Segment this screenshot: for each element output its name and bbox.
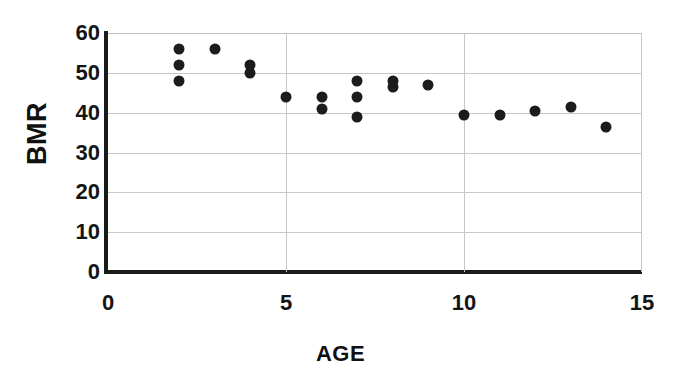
plot-area: [108, 33, 642, 272]
data-point: [174, 59, 185, 70]
x-tick-label-5: 5: [256, 290, 316, 316]
x-tick-label-10: 10: [434, 290, 494, 316]
data-point: [174, 43, 185, 54]
plot-top-border: [108, 33, 642, 34]
scatter-chart: BMR 0102030405060 051015 AGE: [0, 0, 681, 379]
x-axis-title: AGE: [0, 341, 681, 367]
y-tick-label-40: 40: [40, 100, 100, 126]
data-point: [530, 105, 541, 116]
data-point: [245, 67, 256, 78]
gridline-x-5: [286, 33, 287, 272]
y-tick-label-30: 30: [40, 140, 100, 166]
data-point: [352, 75, 363, 86]
y-tick-label-60: 60: [40, 20, 100, 46]
data-point: [423, 79, 434, 90]
gridline-y-50: [108, 73, 642, 74]
data-point: [494, 109, 505, 120]
data-point: [316, 103, 327, 114]
data-point: [601, 121, 612, 132]
y-tick-label-50: 50: [40, 60, 100, 86]
gridline-y-10: [108, 232, 642, 233]
y-tick-label-0: 0: [40, 259, 100, 285]
x-tick-label-15: 15: [612, 290, 672, 316]
data-point: [387, 81, 398, 92]
data-point: [174, 75, 185, 86]
data-point: [316, 91, 327, 102]
y-tick-label-20: 20: [40, 179, 100, 205]
data-point: [209, 43, 220, 54]
data-point: [565, 101, 576, 112]
data-point: [352, 111, 363, 122]
data-point: [281, 91, 292, 102]
gridline-x-10: [464, 33, 465, 272]
gridline-y-30: [108, 153, 642, 154]
x-axis-tick-labels: 051015: [108, 290, 642, 320]
data-point: [459, 109, 470, 120]
y-axis-tick-labels: 0102030405060: [36, 33, 100, 272]
gridline-y-20: [108, 192, 642, 193]
x-tick-label-0: 0: [78, 290, 138, 316]
data-point: [352, 91, 363, 102]
y-tick-label-10: 10: [40, 219, 100, 245]
gridline-y-40: [108, 113, 642, 114]
